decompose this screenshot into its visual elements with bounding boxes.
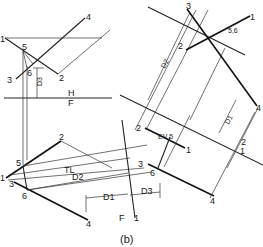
aux1-point-2: 2	[136, 123, 141, 133]
aux1-point-4: 4	[210, 196, 215, 206]
front-dim-d1: D1	[103, 192, 115, 202]
front-dim-d2: D2	[72, 172, 84, 182]
front-point-6: 6	[22, 191, 27, 201]
aux2-point-2: 2	[178, 41, 183, 51]
aux2-point-1: 1	[250, 12, 255, 22]
aux2-dim-d2: D2	[160, 58, 170, 69]
fold-label-h: H	[68, 88, 75, 98]
fold-label-f: F	[68, 98, 74, 108]
aux1-point-3: 3	[138, 159, 143, 169]
front-point-2: 2	[59, 132, 64, 142]
front-point-1: 1	[0, 173, 5, 183]
auxiliary-view-2	[148, 7, 257, 106]
top-point-6: 6	[27, 68, 32, 78]
top-point-1: 1	[0, 34, 5, 44]
front-view	[6, 120, 160, 220]
aux1-point-6: 6	[150, 168, 155, 178]
edge-view-label: EV 5	[158, 133, 173, 140]
descriptive-geometry-drawing: 1 2 3 4 5 6 D3 H F 1 2 3 4 5 6 TL D2 D1 …	[0, 0, 263, 247]
aux1-point-1: 1	[186, 145, 191, 155]
top-point-4: 4	[86, 12, 91, 22]
aux-dim-d1: D1	[224, 114, 234, 125]
fold-label-1b: 1	[240, 146, 245, 156]
aux-dim-d3: D3	[141, 186, 153, 196]
top-dim-d3: D3	[36, 77, 43, 86]
fold-label-1: 1	[134, 213, 139, 223]
point-5-6-label: 5,6	[228, 27, 238, 34]
top-point-5: 5	[22, 42, 27, 52]
aux2-point-3: 3	[186, 1, 191, 11]
aux2-point-4: 4	[256, 103, 261, 113]
front-point-4: 4	[86, 219, 91, 229]
fold-label-f2: F	[119, 213, 125, 223]
top-point-2: 2	[59, 73, 64, 83]
front-point-3: 3	[9, 179, 14, 189]
auxiliary-view-1	[120, 10, 263, 198]
front-point-5: 5	[16, 158, 21, 168]
top-point-3: 3	[7, 75, 12, 85]
figure-caption: (b)	[120, 233, 133, 245]
